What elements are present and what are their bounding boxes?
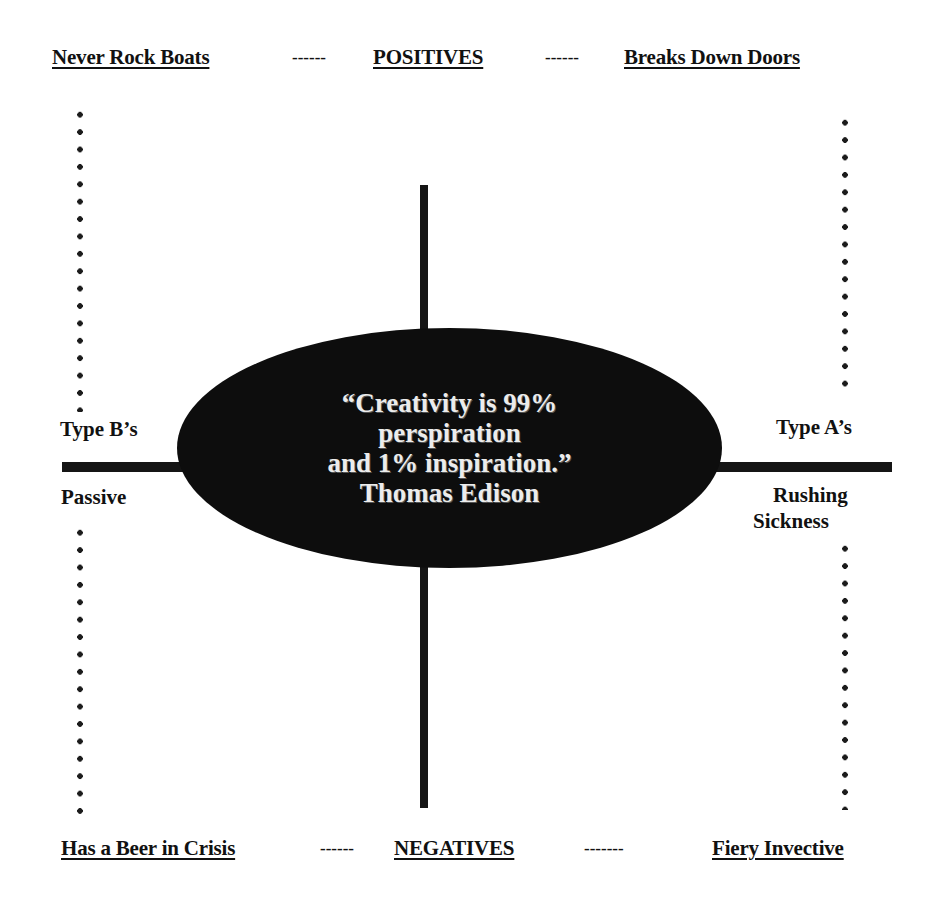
quote-oval: “Creativity is 99% perspiration and 1% i…: [177, 328, 722, 568]
quote-line-3: and 1% inspiration.”: [328, 448, 572, 478]
rushing-label: Rushing: [773, 482, 848, 508]
bottom-separator-left: ------: [320, 839, 354, 859]
sickness-label: Sickness: [753, 508, 829, 534]
quote-attribution: Thomas Edison: [328, 478, 572, 508]
edison-quote: “Creativity is 99% perspiration and 1% i…: [328, 388, 572, 508]
right-upper-dotted-line: [842, 114, 848, 390]
left-lower-dotted-line: [77, 524, 83, 814]
top-right-label: Breaks Down Doors: [624, 45, 800, 70]
bottom-left-label: Has a Beer in Crisis: [61, 836, 235, 861]
type-b-label: Type B’s: [60, 416, 138, 442]
right-lower-dotted-line: [842, 540, 848, 810]
bottom-right-label: Fiery Invective: [712, 836, 844, 861]
top-separator-left: ------: [292, 48, 326, 68]
negatives-heading: NEGATIVES: [394, 836, 514, 861]
positives-heading: POSITIVES: [373, 45, 483, 70]
type-a-label: Type A’s: [776, 414, 852, 440]
quote-line-2: perspiration: [328, 418, 572, 448]
quote-line-1: “Creativity is 99%: [328, 388, 572, 418]
passive-label: Passive: [61, 484, 126, 510]
top-left-label: Never Rock Boats: [52, 45, 209, 70]
left-upper-dotted-line: [77, 106, 83, 412]
bottom-separator-right: -------: [584, 839, 624, 859]
top-separator-right: ------: [545, 48, 579, 68]
